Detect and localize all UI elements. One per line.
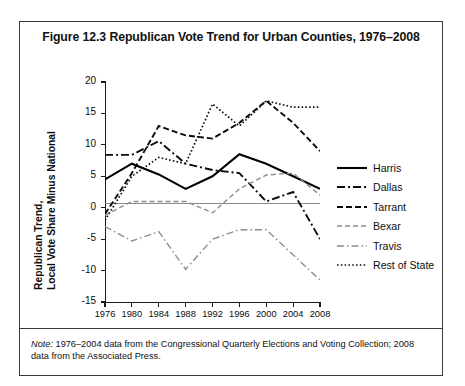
x-tick-label: 2008 [300, 309, 340, 319]
legend-item-travis[interactable]: Travis [337, 236, 437, 256]
x-tick-mark [239, 302, 240, 307]
legend-label: Travis [373, 240, 401, 252]
x-tick-mark [104, 302, 105, 307]
legend-item-bexar[interactable]: Bexar [337, 217, 437, 237]
note-body: 1976–2004 data from the Congressional Qu… [31, 339, 414, 361]
y-tick-label: -10 [66, 264, 96, 275]
legend-item-rest-of-state[interactable]: Rest of State [337, 256, 437, 276]
legend-item-tarrant[interactable]: Tarrant [337, 197, 437, 217]
x-tick-mark [212, 302, 213, 307]
y-tick-label: 5 [66, 169, 96, 180]
legend-label: Bexar [373, 220, 401, 232]
legend-line-swatch [337, 181, 367, 193]
x-tick-mark [131, 302, 132, 307]
y-axis-label-line2: Local Vote Share Minus National [46, 131, 58, 290]
legend-line-swatch [337, 162, 367, 174]
legend-line-swatch [337, 240, 367, 252]
note-label: Note: [31, 339, 53, 349]
legend-item-harris[interactable]: Harris [337, 158, 437, 178]
x-tick-mark [266, 302, 267, 307]
y-tick-label: 20 [66, 75, 96, 86]
note-divider [20, 328, 442, 329]
y-tick-label: -5 [66, 232, 96, 243]
legend-item-dallas[interactable]: Dallas [337, 178, 437, 198]
legend-line-swatch [337, 259, 367, 271]
y-tick-label: 15 [66, 106, 96, 117]
legend-line-swatch [337, 201, 367, 213]
figure-container: Figure 12.3 Republican Vote Trend for Ur… [0, 0, 465, 386]
x-tick-mark [319, 302, 320, 307]
series-line-harris [105, 154, 320, 189]
x-tick-mark [158, 302, 159, 307]
figure-note: Note: 1976–2004 data from the Congressio… [31, 339, 431, 362]
series-line-dallas [105, 141, 320, 239]
figure-title: Figure 12.3 Republican Vote Trend for Ur… [19, 30, 443, 44]
series-line-tarrant [105, 101, 320, 214]
y-axis-label-line1: Republican Trend, [33, 201, 45, 290]
series-line-travis [105, 227, 320, 280]
y-tick-label: 0 [66, 201, 96, 212]
y-tick-label: 10 [66, 138, 96, 149]
y-tick-label: -15 [66, 295, 96, 306]
chart-plot-area [105, 82, 320, 302]
legend-label: Rest of State [373, 259, 434, 271]
chart-legend: HarrisDallasTarrantBexarTravisRest of St… [337, 158, 437, 275]
x-tick-mark [185, 302, 186, 307]
x-tick-mark [293, 302, 294, 307]
legend-label: Tarrant [373, 201, 406, 213]
legend-label: Dallas [373, 181, 402, 193]
legend-label: Harris [373, 162, 401, 174]
legend-line-swatch [337, 220, 367, 232]
